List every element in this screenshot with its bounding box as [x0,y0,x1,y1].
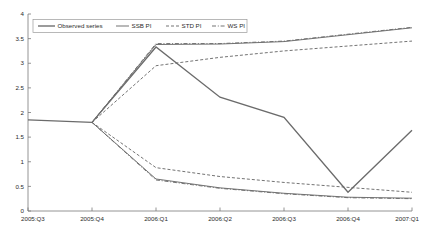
y-tick-label: 2 [21,109,25,116]
legend-label-ws-pi: WS PI [228,22,246,29]
fan-chart-figure: 00.511.522.533.54 2005:Q32005:Q42006:Q12… [0,0,425,238]
y-tick-label: 0.5 [15,183,24,190]
y-tick-label: 3 [21,59,25,66]
y-tick-label: 4 [21,10,25,17]
x-tick-label: 2006:Q4 [336,215,360,222]
x-tick-label: 2005:Q3 [21,215,45,222]
legend: Observed seriesSSB PISTD PIWS PI [38,22,245,29]
series-line-ssb-pi-upper [92,28,412,123]
x-axis-ticks: 2005:Q32005:Q42006:Q12006:Q22006:Q32006:… [21,208,420,223]
series-line-ws-pi-lower [92,122,412,198]
series-line-observed-series [28,47,412,192]
legend-label-std-pi: STD PI [182,22,202,29]
y-tick-label: 0 [21,207,25,214]
x-tick-label: 2005:Q4 [80,215,104,222]
y-tick-label: 1.5 [15,133,24,140]
x-tick-label: 2007:Q1 [395,215,419,222]
y-tick-label: 2.5 [15,84,24,91]
series-line-std-pi-upper [92,41,412,122]
x-tick-label: 2006:Q2 [208,215,232,222]
series-line-ssb-pi-lower [92,122,412,198]
series-layer [28,27,412,198]
legend-label-observed-series: Observed series [58,22,103,29]
y-tick-label: 1 [21,158,25,165]
y-tick-label: 3.5 [15,35,24,42]
series-line-ws-pi-upper [92,27,412,122]
series-line-std-pi-lower [92,122,412,192]
legend-label-ssb-pi: SSB PI [132,22,152,29]
x-tick-label: 2006:Q1 [144,215,168,222]
x-tick-label: 2006:Q3 [272,215,296,222]
chart-canvas: 00.511.522.533.54 2005:Q32005:Q42006:Q12… [0,0,425,238]
y-axis-ticks: 00.511.522.533.54 [15,10,31,214]
